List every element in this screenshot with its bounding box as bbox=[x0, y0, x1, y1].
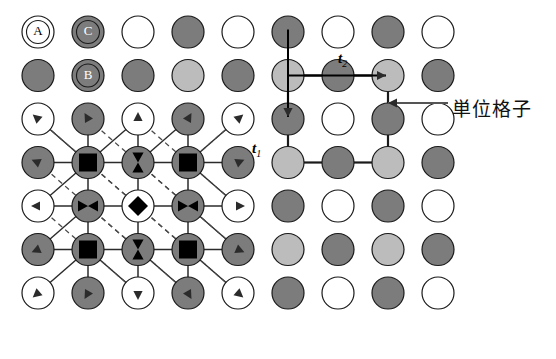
lattice-atom bbox=[422, 277, 454, 309]
lattice-atom bbox=[322, 103, 354, 135]
lattice-atom bbox=[122, 16, 154, 48]
atom-circle-dark bbox=[272, 190, 304, 222]
marker-layer bbox=[27, 21, 199, 260]
vector-label-t1: t1 bbox=[252, 140, 261, 159]
lattice-atom bbox=[322, 234, 354, 266]
atom-circle-light bbox=[172, 60, 204, 92]
atom-circle-white bbox=[422, 190, 454, 222]
lattice-atom bbox=[272, 277, 304, 309]
atom-circle-white bbox=[322, 16, 354, 48]
atom-label-b: B bbox=[78, 67, 98, 83]
atom-circle-white bbox=[122, 16, 154, 48]
lattice-atom bbox=[372, 103, 404, 135]
lattice-atom bbox=[222, 16, 254, 48]
marker-square bbox=[79, 154, 97, 172]
unit-cell-caption: 単位格子 bbox=[452, 94, 532, 121]
atom-circle-white bbox=[322, 190, 354, 222]
figure-canvas: t1t2単位格子ACB bbox=[0, 0, 556, 359]
atom-circle-white bbox=[322, 103, 354, 135]
lattice-atom bbox=[172, 60, 204, 92]
atom-circle-light bbox=[372, 234, 404, 266]
lattice-atom bbox=[272, 190, 304, 222]
atom-circle-white bbox=[422, 16, 454, 48]
vector-subscript-t1: 1 bbox=[256, 148, 261, 159]
atom-circle-dark bbox=[272, 277, 304, 309]
atom-label-c: C bbox=[78, 23, 98, 39]
lattice-atom bbox=[322, 16, 354, 48]
lattice-atom bbox=[322, 190, 354, 222]
atom-circle-white bbox=[422, 277, 454, 309]
lattice-atom bbox=[422, 190, 454, 222]
atom-circle-dark bbox=[322, 234, 354, 266]
lattice-atom bbox=[422, 103, 454, 135]
vector-label-t2: t2 bbox=[338, 50, 347, 69]
lattice-atom bbox=[372, 16, 404, 48]
lattice-atom bbox=[272, 147, 304, 179]
atom-circle-white bbox=[222, 16, 254, 48]
marker-square bbox=[179, 241, 197, 259]
lattice-atom bbox=[22, 60, 54, 92]
atom-circle-dark bbox=[422, 60, 454, 92]
lattice-atom bbox=[372, 190, 404, 222]
lattice-atom bbox=[172, 16, 204, 48]
atom-circle-dark bbox=[322, 147, 354, 179]
lattice-atom bbox=[422, 16, 454, 48]
marker-square bbox=[79, 241, 97, 259]
atom-circle-light bbox=[372, 147, 404, 179]
atom-label-a: A bbox=[28, 23, 48, 39]
atom-circle-white bbox=[422, 103, 454, 135]
atom-circle-dark bbox=[22, 60, 54, 92]
atom-circle-dark bbox=[122, 60, 154, 92]
lattice-atom bbox=[222, 60, 254, 92]
atom-circle-dark bbox=[372, 16, 404, 48]
lattice-atom bbox=[372, 234, 404, 266]
lattice-svg bbox=[0, 0, 556, 359]
atom-circle-dark bbox=[222, 60, 254, 92]
lattice-atom bbox=[272, 234, 304, 266]
vector-subscript-t2: 2 bbox=[342, 58, 347, 69]
atom-circle-dark bbox=[172, 16, 204, 48]
lattice-atom bbox=[422, 147, 454, 179]
lattice-atom bbox=[372, 277, 404, 309]
atom-circle-dark bbox=[372, 190, 404, 222]
atom-circle-light bbox=[272, 234, 304, 266]
atom-circle-dark bbox=[372, 277, 404, 309]
atom-circle-dark bbox=[372, 103, 404, 135]
atom-circle-white bbox=[322, 277, 354, 309]
lattice-atom bbox=[422, 234, 454, 266]
atom-circle-dark bbox=[422, 234, 454, 266]
atom-circle-dark bbox=[422, 147, 454, 179]
lattice-atom bbox=[322, 147, 354, 179]
lattice-atom bbox=[122, 60, 154, 92]
lattice-atom bbox=[322, 277, 354, 309]
lattice-atom bbox=[422, 60, 454, 92]
atom-circle-light bbox=[272, 147, 304, 179]
marker-square bbox=[179, 154, 197, 172]
lattice-atom bbox=[372, 147, 404, 179]
